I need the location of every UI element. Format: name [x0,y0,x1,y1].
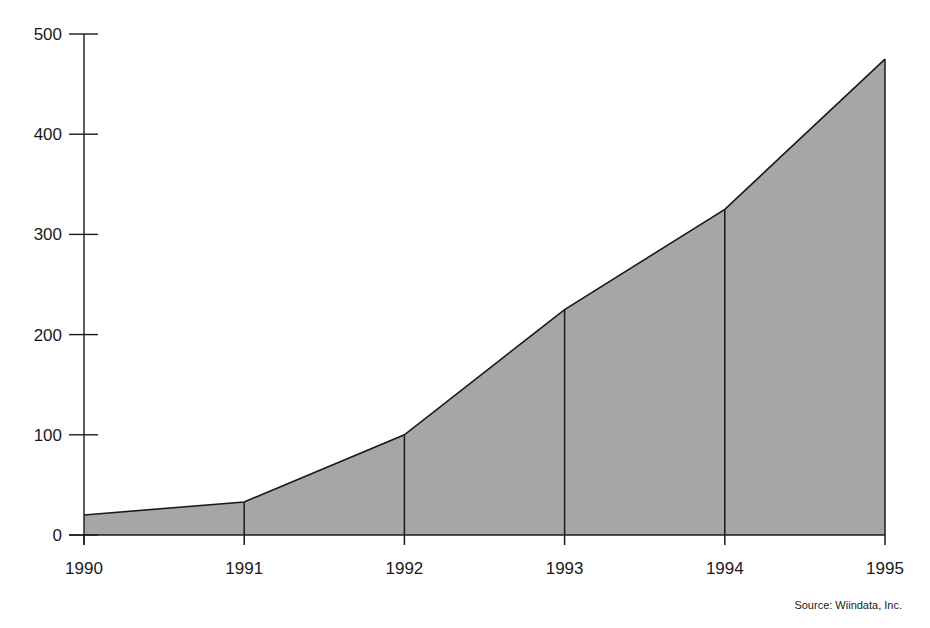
x-tick-label: 1994 [706,559,744,578]
y-tick-label: 300 [34,225,62,244]
y-tick-label: 200 [34,326,62,345]
area-chart: 0100200300400500 19901991199219931994199… [0,0,930,628]
x-tick-label: 1990 [65,559,103,578]
y-tick-label: 0 [53,526,62,545]
x-tick-label: 1993 [546,559,584,578]
y-tick-label: 500 [34,25,62,44]
x-tick-label: 1991 [225,559,263,578]
x-tick-label: 1992 [385,559,423,578]
y-axis-labels: 0100200300400500 [34,25,62,545]
y-tick-label: 100 [34,426,62,445]
area-fill [84,59,885,535]
y-tick-label: 400 [34,125,62,144]
x-axis-labels: 199019911992199319941995 [65,559,904,578]
source-note: Source: Wiindata, Inc. [794,599,902,611]
x-tick-label: 1995 [866,559,904,578]
area-series [84,59,885,545]
